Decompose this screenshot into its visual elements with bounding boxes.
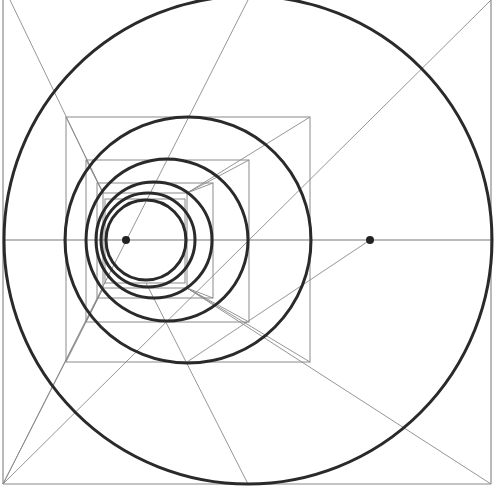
geometric-construction-diagram [0,0,494,487]
construction-line [187,240,370,362]
nested-circles [4,0,492,484]
diagram-canvas [0,0,494,487]
construction-line [86,160,103,193]
center-dot [122,236,130,244]
construction-line [86,288,103,322]
center-dot [366,236,374,244]
